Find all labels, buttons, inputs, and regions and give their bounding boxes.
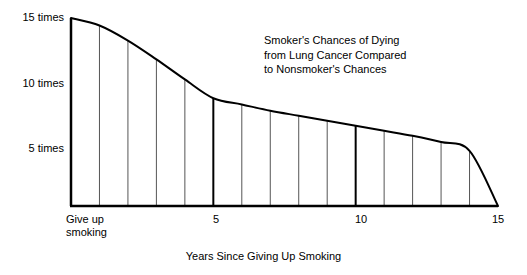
chart-annotation-text: Smoker's Chances of Dying from Lung Canc… (264, 33, 406, 77)
chart-figure: 15 times 10 times 5 times Give up smokin… (0, 0, 527, 275)
x-axis-title: Years Since Giving Up Smoking (0, 250, 527, 262)
y-axis-tick-label-10: 10 times (2, 77, 64, 90)
x-axis-tick-label-5: 5 (196, 213, 236, 226)
y-axis-tick-label-5: 5 times (2, 142, 64, 155)
x-axis-tick-label-10: 10 (341, 213, 381, 226)
x-axis-tick-label-15: 15 (478, 213, 518, 226)
y-axis-tick-label-15: 15 times (2, 11, 64, 24)
x-axis-tick-label-give-up-smoking: Give up smoking (66, 213, 136, 239)
